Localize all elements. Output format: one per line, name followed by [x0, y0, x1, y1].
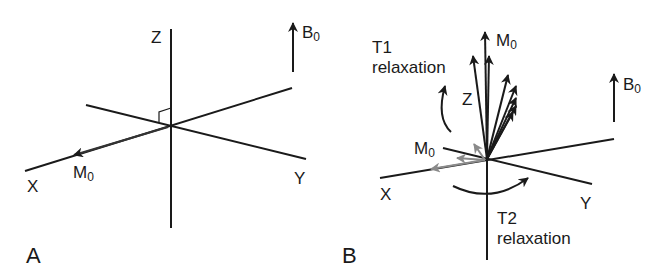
t1-line1: T1	[372, 38, 446, 58]
t2-curved-arrow	[453, 178, 528, 194]
y-label-a: Y	[294, 170, 305, 187]
x-label-b: X	[380, 186, 391, 203]
b0-b-base: B	[623, 75, 634, 94]
right-angle-mark	[159, 108, 171, 122]
x-label-a: X	[27, 178, 38, 195]
m0-base: M	[73, 163, 87, 182]
z-label-a: Z	[151, 29, 161, 46]
t1-line2: relaxation	[372, 58, 446, 78]
t1-curved-arrow	[442, 86, 451, 132]
y-axis-b	[443, 148, 592, 184]
m0-top-base: M	[496, 31, 510, 50]
t2-line2: relaxation	[497, 229, 571, 249]
b0-base: B	[302, 23, 313, 42]
y-axis-a	[86, 105, 306, 159]
m0-top-sub: 0	[510, 38, 517, 52]
m0-trans-sub: 0	[428, 146, 435, 160]
panel-letter-b: B	[342, 245, 357, 267]
m0-label-a: M0	[73, 164, 94, 183]
panel-letter-a: A	[26, 245, 41, 267]
b0-sub: 0	[313, 30, 320, 44]
b0-b-sub: 0	[634, 82, 641, 96]
m0-sub: 0	[87, 170, 94, 184]
m0-vector-a	[74, 127, 168, 155]
t2-relaxation-label: T2 relaxation	[497, 209, 571, 249]
z-label-b: Z	[462, 91, 472, 108]
m0-trans-base: M	[414, 139, 428, 158]
y-label-b: Y	[580, 195, 591, 212]
b0-label-b: B0	[623, 76, 641, 95]
t2-line1: T2	[497, 209, 571, 229]
t1-relaxation-label: T1 relaxation	[372, 38, 446, 78]
b0-label-a: B0	[302, 24, 320, 43]
m0-label-b-transverse: M0	[414, 140, 435, 159]
m0-label-b-top: M0	[496, 32, 517, 51]
